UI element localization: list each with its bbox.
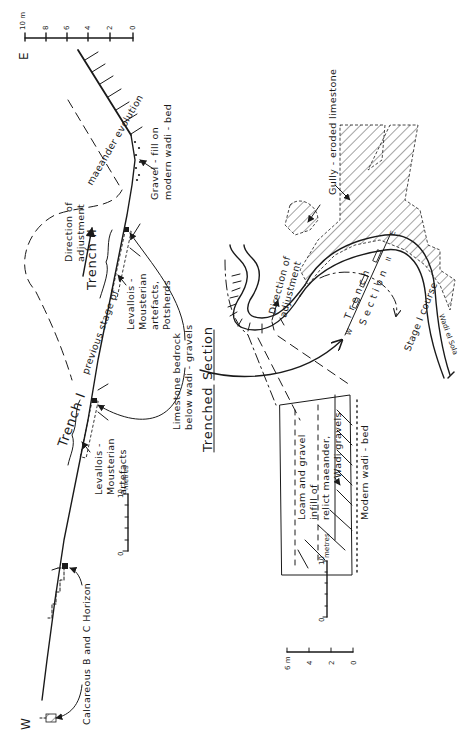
wadi-gravels-label: Wadi gravels xyxy=(332,412,343,478)
loam-label-2: infill of xyxy=(308,484,319,520)
section-pointer-arrow xyxy=(200,340,342,376)
trench-w-label: W xyxy=(344,327,354,336)
gully-label: Gully - eroded limestone xyxy=(327,69,338,195)
calcareous-label: Calcareous B and C Horizon xyxy=(81,583,92,725)
plan-scale-unit: metres xyxy=(323,533,331,558)
gravel-fill-label: Gravel - fill on xyxy=(149,127,160,200)
levallois-2-label-4: Potsherds xyxy=(161,280,172,330)
bedrock-slope xyxy=(78,50,142,135)
trenched-title: Trenched xyxy=(200,387,215,453)
scale-tick-4: 4 xyxy=(84,25,92,30)
gravel-fill-label-2: modern wadi - bed xyxy=(162,104,173,200)
scale-tick-0: 0 xyxy=(129,26,137,30)
levallois-2-label-3: artefacts, xyxy=(149,281,160,330)
scale-tick-6: 6 xyxy=(63,25,71,30)
plan-v-scale-2: 2 xyxy=(328,661,336,665)
plan-horizontal-scale: 0 10 metres xyxy=(318,533,331,622)
levallois-1-label: Levallois - xyxy=(93,443,104,495)
plan-view: Trenched Section Gully - eroded limeston… xyxy=(200,69,459,670)
plan-scale-0: 0 xyxy=(318,618,326,622)
scale-tick-8: 8 xyxy=(42,26,50,30)
loam-label: Loam and gravel xyxy=(296,434,307,520)
levallois-2-label: Levallois - xyxy=(125,278,136,330)
levallois-2-label-2: Mousterian xyxy=(137,273,148,330)
trench-2-label: Trench II xyxy=(84,228,99,291)
limestone-label: Limestone bedrock xyxy=(171,333,182,430)
profile-vertical-scale: 10 m 8 6 4 2 0 xyxy=(19,12,137,41)
figure-canvas: E 10 m 8 6 4 2 0 xyxy=(0,0,464,740)
h-scale-unit: metres xyxy=(122,465,130,490)
limestone-label-2: below wadi - gravels xyxy=(183,324,194,430)
h-scale-0: 0 xyxy=(117,552,125,556)
loam-label-3: relict maeander, xyxy=(320,435,331,520)
plan-vertical-scale: 6 m 4 2 0 xyxy=(284,648,358,670)
previous-stage-label: previous stage of xyxy=(80,288,121,376)
plan-v-scale-0: 0 xyxy=(350,661,358,665)
geomorphological-figure: E 10 m 8 6 4 2 0 xyxy=(0,0,464,740)
profile-direction-label: Direction of xyxy=(63,202,74,262)
modern-wadi-bed-label: Modern wadi - bed xyxy=(359,425,370,520)
trench-ii-marker: II xyxy=(384,256,393,263)
stage-course-label: Stage I course xyxy=(402,280,440,352)
meander-evolution-label: maeander evolution xyxy=(84,92,145,187)
scale-tick-2: 2 xyxy=(106,26,114,30)
plan-v-scale-6m: 6 m xyxy=(284,656,292,670)
east-label: E xyxy=(17,52,31,60)
profile-section: E 10 m 8 6 4 2 0 xyxy=(17,12,194,730)
gully-limestone-side xyxy=(285,201,318,235)
west-label: W xyxy=(19,718,33,730)
scale-tick-10m: 10 m xyxy=(19,12,27,30)
levallois-1-label-2: Mousterian xyxy=(105,438,116,495)
plan-v-scale-4: 4 xyxy=(306,660,314,665)
